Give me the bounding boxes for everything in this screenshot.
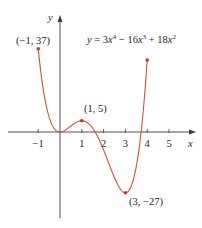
x-tick-label: −1: [33, 138, 44, 149]
eq-part: = 3: [92, 34, 108, 45]
x-tick-label: 5: [166, 138, 171, 149]
critical-points: [36, 47, 149, 195]
eq-mid2: + 18: [146, 34, 168, 45]
data-point-marker: [124, 191, 128, 195]
data-point-marker: [145, 58, 149, 62]
x-tick-label: 1: [79, 138, 84, 149]
eq-p3: 2: [172, 33, 176, 41]
equation-label: y = 3x4 − 16x3 + 18x2: [86, 33, 176, 45]
x-tick-label: 2: [101, 138, 106, 149]
annotation-local-max: (1, 5): [84, 103, 107, 115]
data-point-marker: [36, 47, 40, 51]
eq-mid1: − 16: [116, 34, 138, 45]
chart-canvas: y x −112345 y = 3x4 − 16x3 + 18x2 (−1, 3…: [0, 0, 202, 228]
y-axis-arrow-icon: [58, 15, 63, 22]
annotation-min-left: (−1, 37): [16, 35, 50, 47]
x-tick-label: 3: [123, 138, 128, 149]
x-axis-label: x: [187, 138, 193, 149]
data-point-marker: [80, 119, 84, 123]
x-tick-label: 4: [145, 138, 151, 149]
x-axis-arrow-icon: [189, 130, 196, 135]
annotation-global-min: (3, −27): [129, 196, 163, 208]
function-curve: [38, 49, 147, 193]
y-axis-label: y: [47, 12, 53, 23]
